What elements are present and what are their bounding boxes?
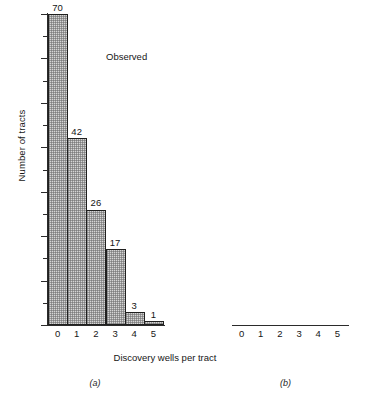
x-tick-label: 3	[112, 328, 117, 339]
x-tick-label: 5	[151, 328, 156, 339]
bar-value-label: 1	[151, 309, 156, 320]
histogram-bar	[125, 312, 145, 325]
bar-value-label: 17	[110, 237, 121, 248]
histogram-bar	[106, 249, 126, 325]
histogram-bar	[144, 321, 164, 325]
histogram-bar	[48, 14, 68, 325]
bar-value-label: 70	[52, 2, 63, 13]
panel-caption-b: (b)	[190, 378, 381, 388]
x-axis-title: Discovery wells per tract	[0, 352, 330, 363]
histogram-bar	[67, 138, 87, 325]
x-tick-label: 2	[277, 328, 282, 339]
bar-value-label: 42	[71, 126, 82, 137]
x-tick-label: 4	[316, 328, 321, 339]
x-tick-label: 1	[258, 328, 263, 339]
x-tick-label: 3	[296, 328, 301, 339]
bar-value-label: 3	[132, 300, 137, 311]
x-tick-label: 2	[93, 328, 98, 339]
panel-b: 70.248.224.210.64.31.6 Negative binomial	[190, 0, 381, 396]
x-tick-label: 0	[55, 328, 60, 339]
x-tick-label: 0	[239, 328, 244, 339]
bar-value-label: 26	[91, 197, 102, 208]
histogram-figure: Number of tracts 010203040506070 7042261…	[0, 0, 381, 396]
x-tick-label: 5	[335, 328, 340, 339]
series-label-observed: Observed	[106, 51, 147, 62]
panel-caption-a: (a)	[0, 378, 190, 388]
histogram-bar	[86, 210, 106, 326]
x-tick-label: 1	[74, 328, 79, 339]
x-tick-label: 4	[132, 328, 137, 339]
